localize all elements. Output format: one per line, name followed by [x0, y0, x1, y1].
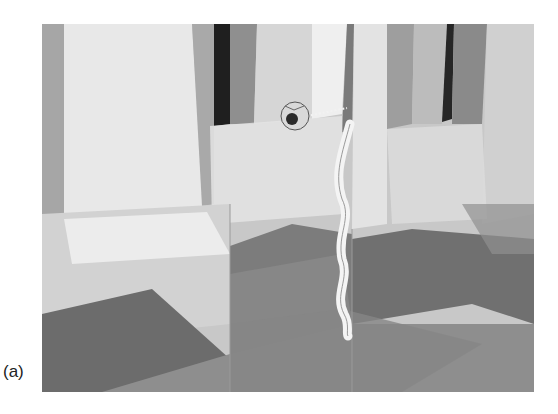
rendered-scene — [42, 24, 534, 392]
scene-graphic — [42, 24, 534, 392]
panel-label: (a) — [3, 362, 24, 382]
